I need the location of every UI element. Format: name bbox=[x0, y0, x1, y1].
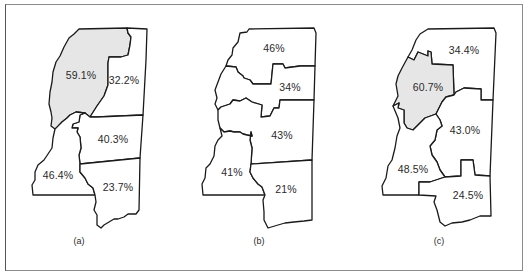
panel-c-label-southeast: 24.5% bbox=[453, 189, 483, 201]
panel-a-label-northwest: 59.1% bbox=[66, 69, 96, 81]
panel-b-label-north-central: 34% bbox=[279, 81, 300, 93]
panel-c-label-central: 43.0% bbox=[450, 124, 480, 136]
panel-c-label-southwest: 48.5% bbox=[398, 163, 428, 175]
panel-a-label-central: 40.3% bbox=[98, 133, 128, 145]
panel-b-caption: (b) bbox=[254, 236, 265, 246]
panel-b-label-southwest: 41% bbox=[221, 166, 242, 178]
panel-c-label-north: 34.4% bbox=[449, 44, 479, 56]
panel-b-label-central: 43% bbox=[271, 129, 292, 141]
panel-a-label-southwest: 46.4% bbox=[43, 169, 73, 181]
panel-a-label-northeast: 32.2% bbox=[109, 74, 139, 86]
panel-c-label-northwest: 60.7% bbox=[413, 81, 443, 93]
panel-a-caption: (a) bbox=[74, 236, 85, 246]
panel-a-label-southeast: 23.7% bbox=[103, 181, 133, 193]
panel-a-map bbox=[32, 28, 147, 228]
panel-b-label-north: 46% bbox=[263, 42, 284, 54]
panel-b-map bbox=[202, 28, 316, 228]
panel-c-caption: (c) bbox=[434, 236, 445, 246]
panel-b-label-southeast: 21% bbox=[275, 183, 296, 195]
